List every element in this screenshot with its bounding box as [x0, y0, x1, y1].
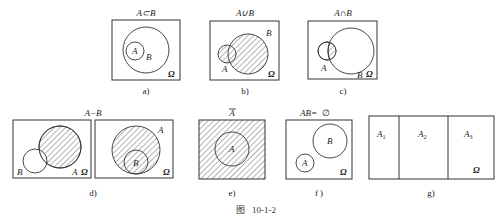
omega-label: Ω — [340, 167, 347, 177]
panel-d-label: d) — [89, 188, 97, 198]
set-a-label: A — [157, 125, 164, 135]
set-a-label: A — [320, 63, 327, 73]
panel-f-label: f ) — [315, 188, 323, 198]
set-a-label: A — [131, 46, 138, 56]
set-b-label: B — [327, 136, 333, 146]
omega-label: Ω — [81, 167, 88, 177]
set-b-label: B — [357, 70, 363, 80]
panel-f-disjoint: AB= ∅ B A Ω f ) — [286, 108, 352, 198]
panel-c-intersection: A∩B A B Ω c) — [308, 8, 377, 96]
caption-number: 10-1-2 — [252, 205, 276, 215]
omega-label: Ω — [473, 165, 480, 175]
omega-label: Ω — [168, 69, 175, 79]
set-a-circle-shaded — [218, 45, 236, 63]
set-a1-label: A1 — [376, 129, 386, 140]
set-b-circle — [23, 149, 47, 173]
omega-label: Ω — [366, 69, 373, 79]
set-operations-figure: A⊂B A B Ω a) A∪B A B Ω b) A∩B A B Ω c) A… — [0, 0, 503, 220]
panel-d-difference: A−B B A Ω B A Ω d) — [13, 108, 173, 198]
panel-b-label: b) — [241, 86, 249, 96]
set-b-circle — [123, 27, 169, 73]
empty-set-symbol: ∅ — [322, 108, 330, 118]
set-a-label: A — [228, 144, 235, 154]
panel-e-complement: A A e) — [199, 108, 265, 198]
figure-caption: 图 10-1-2 — [236, 205, 276, 215]
set-a-label: A — [71, 167, 78, 177]
panel-b-union: A∪B A B Ω b) — [210, 8, 279, 96]
panel-g-partition: A1 A2 A3 Ω g) — [369, 116, 494, 198]
set-b-label: B — [17, 167, 23, 177]
panel-f-title-lhs: AB= — [299, 108, 317, 118]
panel-d-title: A−B — [83, 108, 102, 118]
set-a-label: A — [301, 158, 308, 168]
panel-g-label: g) — [427, 188, 435, 198]
panel-a-subset: A⊂B A B Ω a) — [112, 8, 180, 96]
omega-label: Ω — [163, 167, 170, 177]
set-b-label: B — [133, 158, 139, 168]
set-b-label: B — [146, 52, 152, 62]
panel-b-title: A∪B — [235, 8, 254, 18]
set-a2-label: A2 — [417, 129, 427, 140]
caption-prefix: 图 — [236, 205, 245, 215]
panel-e-title: A — [228, 108, 235, 118]
panel-a-label: a) — [143, 86, 150, 96]
set-a3-label: A3 — [463, 129, 473, 140]
panel-c-label: c) — [340, 86, 347, 96]
set-b-label: B — [266, 28, 272, 38]
set-a-label: A — [221, 64, 228, 74]
omega-label: Ω — [268, 69, 275, 79]
panel-e-label: e) — [229, 188, 236, 198]
panel-a-title: A⊂B — [136, 8, 156, 18]
panel-c-title: A∩B — [333, 8, 352, 18]
